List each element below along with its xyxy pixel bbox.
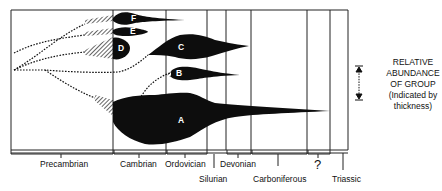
period-label-devonian: Devonian [220,159,256,169]
period-label-carboniferous: Carboniferous [253,174,306,184]
group-c-shape [148,34,249,59]
group-d-label: D [118,44,124,53]
group-a-label: A [178,116,184,125]
group-f-label: F [131,14,136,23]
period-label-precambrian: Precambrian [40,159,88,169]
abundance-scale-icon [355,66,363,100]
group-a-shape [113,93,330,145]
group-shapes [113,12,330,144]
legend-line-4: (Indicated by [384,90,442,101]
group-e-label: E [130,27,136,36]
period-label-unknown: ? [314,160,321,170]
group-f-shape [113,12,185,24]
group-c-label: C [178,43,184,52]
group-b-label: B [176,69,182,78]
period-label-silurian: Silurian [199,174,227,184]
legend-line-5: thickness) [384,101,442,112]
legend-line-1: RELATIVE [384,57,442,68]
legend-line-2: ABUNDANCE [384,68,442,79]
abundance-legend: RELATIVE ABUNDANCE OF GROUP (Indicated b… [384,57,442,112]
legend-line-3: OF GROUP [384,79,442,90]
period-label-ordovician: Ordovician [165,159,206,169]
period-label-triassic: Triassic [332,174,361,184]
period-label-cambrian: Cambrian [120,159,157,169]
